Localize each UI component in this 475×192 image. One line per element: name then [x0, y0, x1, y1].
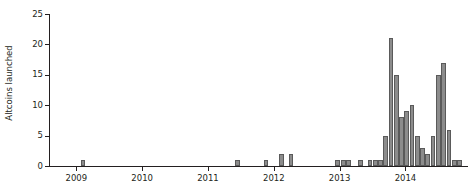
x-tick-label: 2010 — [122, 173, 162, 183]
y-tick-label: 0 — [17, 162, 43, 171]
x-tick-mark — [142, 167, 143, 171]
y-tick-label-text: 20 — [17, 40, 43, 49]
x-tick-label: 2009 — [56, 173, 96, 183]
bar — [420, 148, 425, 166]
bar — [436, 75, 441, 166]
bar — [441, 63, 446, 166]
y-axis-ticks: 0510152025 — [0, 0, 51, 192]
y-tick-label-text: 25 — [17, 10, 43, 19]
x-tick-label: 2011 — [188, 173, 228, 183]
bar — [399, 117, 404, 166]
bar — [431, 136, 436, 166]
bar — [404, 111, 409, 166]
y-tick-label: 25 — [17, 10, 43, 19]
y-tick-label: 5 — [17, 131, 43, 140]
y-tick-label-text: 15 — [17, 70, 43, 79]
x-tick-label: 2013 — [320, 173, 360, 183]
y-tick-label-text: 5 — [17, 131, 43, 140]
plot-area — [50, 14, 468, 166]
y-tick-label: 10 — [17, 101, 43, 110]
y-tick-label-text: 0 — [17, 162, 43, 171]
bar — [279, 154, 284, 166]
x-tick-label: 2014 — [385, 173, 425, 183]
bar — [394, 75, 399, 166]
bar — [447, 130, 452, 166]
bar — [425, 154, 430, 166]
bar — [415, 136, 420, 166]
bar — [389, 38, 394, 166]
bar — [289, 154, 294, 166]
x-tick-mark — [405, 167, 406, 171]
x-tick-mark — [274, 167, 275, 171]
x-tick-label: 2012 — [254, 173, 294, 183]
y-tick-label: 20 — [17, 40, 43, 49]
y-tick-label-text: 10 — [17, 101, 43, 110]
altcoins-launched-bar-chart: Altcoins launched 0510152025 20092010201… — [0, 0, 475, 192]
bar — [383, 136, 388, 166]
x-tick-mark — [208, 167, 209, 171]
x-tick-mark — [340, 167, 341, 171]
bar — [410, 105, 415, 166]
x-tick-mark — [76, 167, 77, 171]
y-tick-label: 15 — [17, 70, 43, 79]
